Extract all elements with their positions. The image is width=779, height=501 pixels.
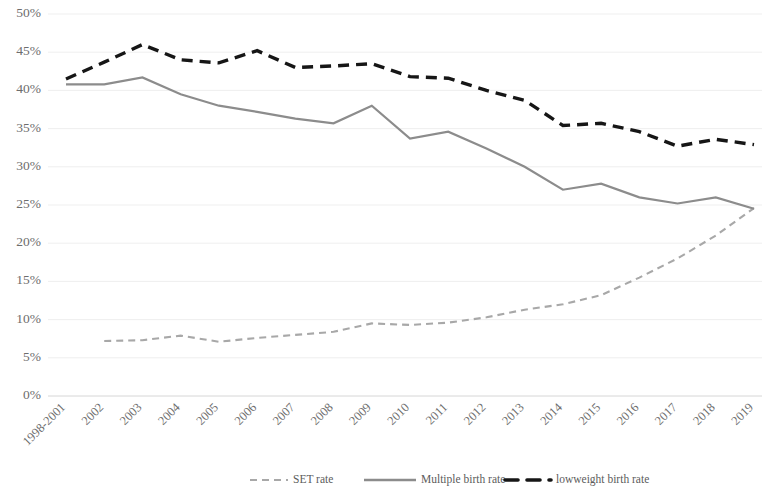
- series-group: [66, 45, 754, 342]
- x-axis-tick-label: 2010: [385, 400, 413, 428]
- x-axis-tick-label: 2013: [499, 400, 527, 428]
- legend-label: lowweight birth rate: [556, 473, 649, 486]
- y-axis-tick-label: 30%: [16, 158, 41, 173]
- y-axis-tick-label: 50%: [16, 5, 41, 20]
- x-axis-tick-label: 2012: [461, 400, 489, 428]
- x-axis-tick-label: 2016: [614, 400, 642, 428]
- x-axis-tick-label: 2019: [729, 400, 757, 428]
- y-axis-tick-label: 0%: [23, 387, 41, 402]
- line-chart: 0%5%10%15%20%25%30%35%40%45%50% 1998-200…: [0, 0, 779, 501]
- series-line: [66, 77, 754, 208]
- legend-label: SET rate: [293, 473, 333, 485]
- x-axis-tick-label: 2011: [423, 400, 450, 427]
- y-axis-tick-label: 25%: [16, 196, 41, 211]
- x-axis-tick-label: 2003: [117, 400, 145, 428]
- x-axis-tick-label: 2005: [193, 400, 221, 428]
- x-axis-tick-label: 2007: [270, 400, 298, 428]
- x-axis-tick-label: 2015: [576, 400, 604, 428]
- y-axis-tick-label: 5%: [23, 349, 41, 364]
- y-axis-tick-label: 10%: [16, 311, 41, 326]
- y-axis-tick-label: 45%: [16, 43, 41, 58]
- y-axis-tick-label: 20%: [16, 234, 41, 249]
- y-axis-tick-label: 40%: [16, 81, 41, 96]
- x-axis-tick-label: 1998-2001: [20, 400, 68, 448]
- x-axis-tick-label: 2004: [155, 400, 183, 428]
- y-axis-labels-group: 0%5%10%15%20%25%30%35%40%45%50%: [16, 5, 41, 402]
- x-axis-tick-label: 2008: [308, 400, 336, 428]
- x-axis-tick-label: 2014: [537, 400, 565, 428]
- chart-legend: SET rateMultiple birth ratelowweight bir…: [250, 473, 649, 486]
- x-axis-labels-group: 1998-20012002200320042005200620072008200…: [20, 400, 756, 449]
- x-axis-tick-label: 2002: [79, 400, 107, 428]
- series-line: [66, 45, 754, 147]
- x-axis-tick-label: 2009: [346, 400, 374, 428]
- x-axis-tick-label: 2017: [652, 400, 680, 428]
- x-axis-tick-label: 2006: [232, 400, 260, 428]
- series-line: [104, 208, 754, 342]
- legend-label: Multiple birth rate: [421, 473, 505, 486]
- y-axis-tick-label: 15%: [16, 272, 41, 287]
- x-axis-tick-label: 2018: [690, 400, 718, 428]
- chart-container: 0%5%10%15%20%25%30%35%40%45%50% 1998-200…: [0, 0, 779, 501]
- y-axis-tick-label: 35%: [16, 120, 41, 135]
